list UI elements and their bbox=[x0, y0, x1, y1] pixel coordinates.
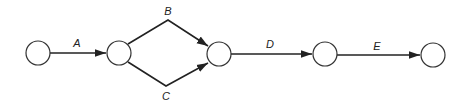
network-diagram: A B C D E bbox=[0, 0, 464, 104]
edge-a-label: A bbox=[72, 37, 80, 49]
edge-d-label: D bbox=[266, 38, 274, 50]
node-2 bbox=[107, 41, 131, 65]
node-5 bbox=[421, 43, 445, 67]
edge-e-label: E bbox=[373, 40, 381, 52]
edge-c-arrow bbox=[128, 62, 208, 86]
edge-b-label: B bbox=[164, 5, 171, 17]
node-3 bbox=[207, 42, 231, 66]
node-1 bbox=[26, 41, 50, 65]
edge-c-label: C bbox=[162, 90, 170, 102]
edge-b-arrow bbox=[128, 20, 208, 46]
node-4 bbox=[313, 42, 337, 66]
